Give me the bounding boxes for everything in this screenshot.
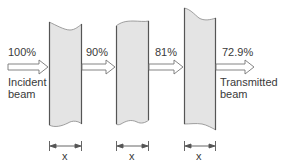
incident-caption-line2: beam xyxy=(8,88,36,100)
thickness-label-3: x xyxy=(196,150,202,162)
transmitted-caption-line2: beam xyxy=(220,88,248,100)
transmitted-caption-line1: Transmitted xyxy=(220,76,278,88)
percent-label-after-slab-2: 81% xyxy=(155,46,177,58)
incident-caption-line1: Incident xyxy=(8,76,47,88)
slab-2 xyxy=(116,21,149,125)
arrow-after-slab-1 xyxy=(82,60,115,74)
arrow-transmitted xyxy=(216,60,254,74)
thickness-label-1: x xyxy=(62,150,68,162)
arrow-incident xyxy=(8,60,48,74)
slab-1 xyxy=(49,22,82,126)
percent-label-transmitted: 72.9% xyxy=(222,46,253,58)
slab-3 xyxy=(184,8,216,130)
arrow-after-slab-2 xyxy=(149,60,183,74)
percent-label-incident: 100% xyxy=(8,46,36,58)
thickness-label-2: x xyxy=(129,150,135,162)
percent-label-after-slab-1: 90% xyxy=(86,46,108,58)
